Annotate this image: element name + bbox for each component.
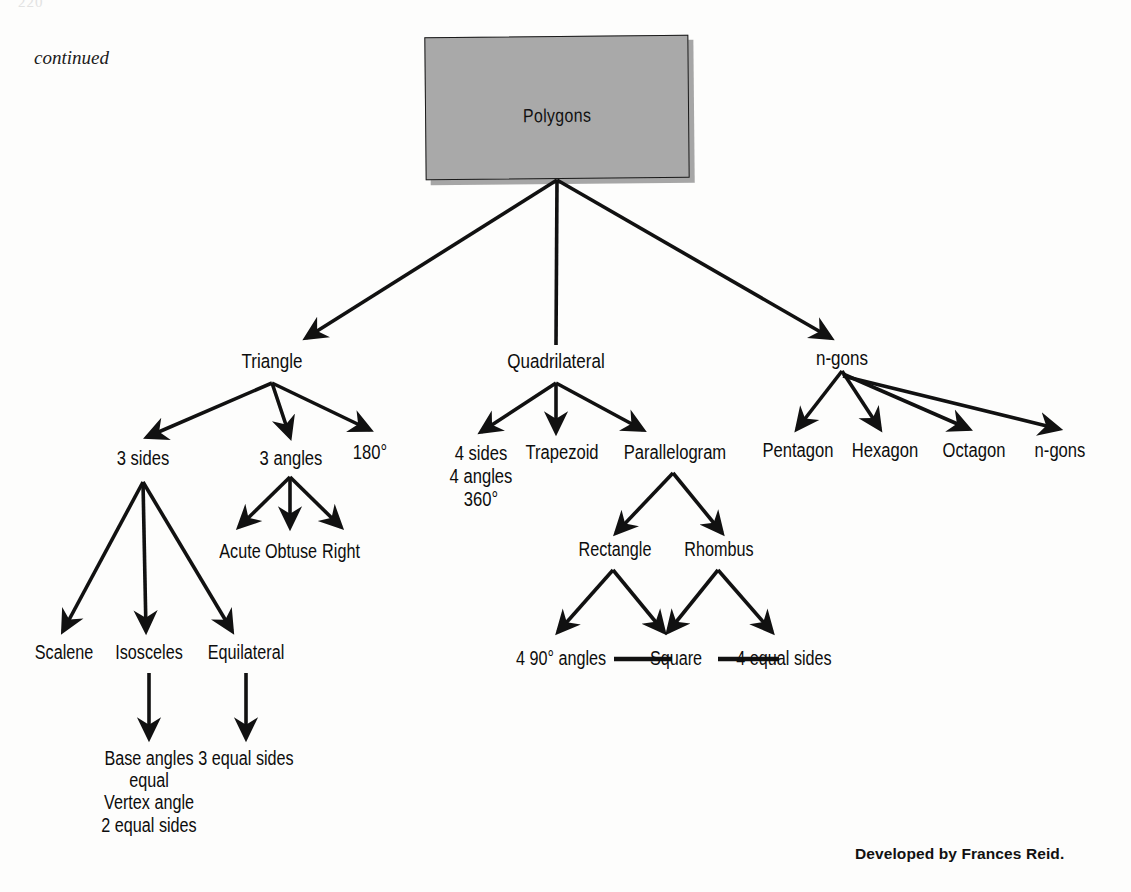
iso-prop-line-2: equal <box>129 769 169 791</box>
root-node-polygons-box: Polygons <box>424 35 689 181</box>
quad-prop-line-3: 360° <box>464 488 498 510</box>
edge-rhombus-4equalsides <box>718 570 772 632</box>
edge-rectangle-490angles <box>558 570 613 632</box>
node-equilateral: Equilateral <box>200 641 293 663</box>
node-3-angles: 3 angles <box>254 447 329 470</box>
continued-note: continued <box>34 47 109 69</box>
edge-rhombus-square <box>668 570 718 632</box>
node-quadrilateral: Quadrilateral <box>498 349 614 372</box>
node-4-90-degree-angles: 4 90° angles <box>510 647 611 669</box>
node-4-equal-sides: 4 equal sides <box>732 647 837 669</box>
edge-triangle-180 <box>272 383 370 430</box>
edge-3sides-isosceles <box>143 482 146 631</box>
edge-3sides-scalene <box>63 482 143 631</box>
quad-prop-line-1: 4 sides <box>455 442 508 464</box>
node-trapezoid: Trapezoid <box>521 441 604 464</box>
node-isosceles-properties: Base anglesequalVertex angle2 equal side… <box>98 747 201 836</box>
edge-triangle-3sides <box>147 383 272 437</box>
node-parallelogram: Parallelogram <box>617 441 733 464</box>
edge-ngons-pentagon <box>797 371 842 429</box>
edge-3angles-acute <box>239 477 290 527</box>
iso-prop-line-1: Base angles <box>104 747 193 769</box>
edge-triangle-3angles <box>272 383 290 437</box>
node-isosceles: Isosceles <box>109 641 189 663</box>
node-square: Square <box>642 647 710 669</box>
node-3-sides: 3 sides <box>108 447 178 470</box>
edge-polygons-triangle <box>306 180 557 338</box>
node-ngons-leaf: n-gons <box>1025 439 1095 462</box>
quad-prop-line-2: 4 angles <box>450 465 513 487</box>
node-3-equal-sides: 3 equal sides <box>195 747 298 769</box>
node-quad-properties: 4 sides4 angles360° <box>444 442 519 510</box>
edge-polygons-quadrilateral <box>556 180 557 345</box>
root-node-label: Polygons <box>447 104 667 128</box>
page-number: 220 <box>18 0 44 11</box>
edge-quad-4sides <box>481 383 556 432</box>
node-triangle: Triangle <box>237 349 307 372</box>
edge-quad-parallelogram <box>556 383 643 430</box>
node-ngons: n-gons <box>807 346 877 369</box>
node-scalene: Scalene <box>30 641 98 663</box>
node-hexagon: Hexagon <box>845 439 925 462</box>
edge-rectangle-square <box>613 570 664 632</box>
edge-ngons-ngons2 <box>843 376 1059 429</box>
edge-3angles-right <box>290 477 341 527</box>
credit-line: Developed by Frances Reid. <box>855 845 1064 863</box>
iso-prop-line-3: Vertex angle <box>104 791 194 813</box>
edge-polygons-ngons <box>557 180 831 338</box>
node-rectangle: Rectangle <box>574 538 657 560</box>
edge-ngons-hexagon <box>842 371 880 429</box>
iso-prop-line-4: 2 equal sides <box>101 814 196 836</box>
node-rhombus: Rhombus <box>679 538 759 560</box>
node-octagon: Octagon <box>936 439 1012 462</box>
diagram-page: 220 continued Polygons <box>0 0 1131 892</box>
edge-parallelogram-rhombus <box>673 473 722 533</box>
edge-ngons-octagon <box>843 374 969 429</box>
node-pentagon: Pentagon <box>757 439 840 462</box>
node-right: Right <box>311 540 371 562</box>
edge-parallelogram-rectangle <box>616 473 673 533</box>
node-180-degrees: 180° <box>344 441 395 464</box>
